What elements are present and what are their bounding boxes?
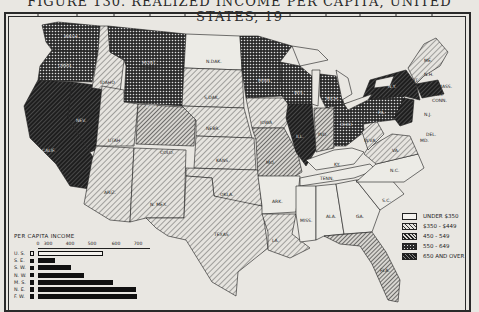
bar (38, 251, 103, 256)
svg-text:IOWA: IOWA (260, 120, 273, 125)
svg-text:R.I.: R.I. (436, 92, 443, 97)
svg-text:OHIO: OHIO (340, 122, 352, 127)
svg-text:MICH.: MICH. (326, 96, 339, 101)
svg-text:MASS.: MASS. (438, 84, 452, 89)
bar-key-marker (30, 259, 34, 264)
svg-text:CONN.: CONN. (432, 98, 447, 103)
bar-label: S. W. (14, 265, 30, 270)
svg-text:ME.: ME. (424, 58, 432, 63)
svg-text:OREG.: OREG. (58, 63, 72, 68)
svg-text:W.VA.: W.VA. (364, 138, 377, 143)
svg-text:ARK.: ARK. (272, 199, 283, 204)
bar-label: N. E. (14, 287, 30, 292)
state-ark (258, 176, 300, 214)
chart-title: PER CAPITA INCOME (14, 233, 164, 239)
bar-key-marker (30, 251, 34, 256)
bar (38, 280, 113, 285)
svg-text:N.C.: N.C. (390, 168, 399, 173)
bar-key-marker (30, 273, 34, 278)
svg-text:ARIZ.: ARIZ. (104, 190, 116, 195)
svg-text:N. MEX.: N. MEX. (150, 202, 167, 207)
legend-item-650-over: 650 AND OVER (402, 251, 464, 261)
bar-row: F. W. (14, 293, 164, 300)
svg-text:WASH.: WASH. (64, 34, 79, 39)
svg-text:TENN.: TENN. (319, 176, 334, 181)
legend-item-450-549: 450 - 549 (402, 231, 464, 241)
axis-line (38, 248, 150, 249)
svg-text:S.DAK.: S.DAK. (204, 95, 219, 100)
light-hatch-swatch (402, 223, 417, 230)
bar (38, 265, 71, 270)
svg-text:KY.: KY. (334, 162, 340, 167)
state-fla (324, 232, 400, 302)
legend-item-350-449: $350 - $449 (402, 221, 464, 231)
legend-item-under-350: UNDER $350 (402, 211, 464, 221)
frame-ticks (38, 12, 432, 16)
medium-hatch-swatch (402, 233, 417, 240)
bar (38, 294, 137, 299)
svg-text:VA.: VA. (392, 148, 399, 153)
svg-text:MISS.: MISS. (300, 218, 312, 223)
svg-text:MINN.: MINN. (258, 78, 271, 83)
state-wyo (124, 66, 184, 106)
svg-text:GA.: GA. (356, 214, 364, 219)
bar-row: M. S. (14, 279, 164, 286)
state-sdak (182, 68, 244, 108)
bar-label: F. W. (14, 294, 30, 299)
bar-key-marker (30, 266, 34, 271)
svg-text:WIS.: WIS. (294, 90, 304, 95)
svg-text:UTAH: UTAH (108, 138, 120, 143)
map-legend: UNDER $350 $350 - $449 450 - 549 550 - 6… (402, 211, 464, 261)
bar-row: N. W. (14, 272, 164, 279)
state-ndak (184, 34, 242, 70)
blank-swatch (402, 213, 417, 220)
bar (38, 258, 55, 263)
chart-axis: 0 300 400 500 600 700 (14, 241, 164, 250)
svg-text:N.H.: N.H. (424, 72, 434, 77)
svg-text:NEV.: NEV. (76, 118, 86, 123)
svg-text:OKLA.: OKLA. (220, 192, 234, 197)
bar-key-marker (30, 294, 34, 299)
svg-text:MD.: MD. (420, 138, 429, 143)
bar-key-marker (30, 280, 34, 285)
svg-text:CALIF.: CALIF. (42, 148, 55, 153)
svg-text:DEL.: DEL. (426, 132, 436, 137)
svg-text:IND.: IND. (318, 132, 328, 137)
bar-label: S. E. (14, 258, 30, 263)
svg-text:S.C.: S.C. (382, 198, 391, 203)
bar-label: M. S. (14, 280, 30, 285)
svg-text:NEBR.: NEBR. (206, 126, 220, 131)
svg-text:ILL.: ILL. (296, 134, 304, 139)
bar-rows: U. S.S. E.S. W.N. W.M. S.N. E.F. W. (14, 250, 164, 300)
bar (38, 273, 84, 278)
bar-row: U. S. (14, 250, 164, 257)
bar-row: S. W. (14, 264, 164, 271)
legend-item-550-649: 550 - 649 (402, 241, 464, 251)
svg-text:N.Y.: N.Y. (388, 84, 396, 89)
svg-text:VT.: VT. (412, 78, 419, 83)
bar-row: N. E. (14, 286, 164, 293)
svg-text:WYO.: WYO. (146, 104, 158, 109)
svg-text:PA.: PA. (378, 110, 385, 115)
svg-text:MO.: MO. (266, 160, 275, 165)
svg-text:TEXAS: TEXAS (213, 232, 229, 237)
svg-text:IDAHO: IDAHO (100, 80, 115, 85)
state-ind (314, 108, 334, 152)
heavy-hatch-swatch (402, 253, 417, 260)
state-miss (296, 186, 316, 242)
dots-swatch (402, 243, 417, 250)
bar-label: U. S. (14, 251, 30, 256)
svg-text:N.J.: N.J. (424, 112, 432, 117)
state-kans (194, 136, 256, 170)
svg-text:COLO.: COLO. (160, 150, 174, 155)
svg-text:FLA.: FLA. (380, 268, 390, 273)
state-nmex (130, 148, 186, 222)
bar-key-marker (30, 287, 34, 292)
svg-text:LA.: LA. (272, 238, 279, 243)
bar-row: S. E. (14, 257, 164, 264)
per-capita-income-chart: PER CAPITA INCOME 0 300 400 500 600 700 … (14, 233, 164, 300)
svg-text:N.DAK.: N.DAK. (206, 59, 222, 64)
svg-text:KANS.: KANS. (216, 158, 230, 163)
bar (38, 287, 136, 292)
svg-text:MONT.: MONT. (142, 60, 156, 65)
